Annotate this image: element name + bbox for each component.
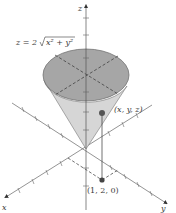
point-projection bbox=[99, 177, 104, 182]
x-axis-label: x bbox=[2, 203, 7, 212]
equation-label: z = 2 x² + y² bbox=[15, 37, 75, 47]
svg-text:x² + y²: x² + y² bbox=[46, 38, 73, 47]
point-xyz bbox=[99, 110, 105, 116]
svg-text:z = 2: z = 2 bbox=[15, 38, 37, 47]
z-axis-label: z bbox=[77, 4, 83, 13]
projection-label: (1, 2, 0) bbox=[87, 186, 119, 195]
point-xyz-label: (x, y, z) bbox=[114, 105, 143, 114]
y-axis-label: y bbox=[160, 204, 166, 213]
cone-diagram: z x y z = 2 x² + y² (x, y, z) (1, 2, 0) bbox=[0, 0, 176, 213]
